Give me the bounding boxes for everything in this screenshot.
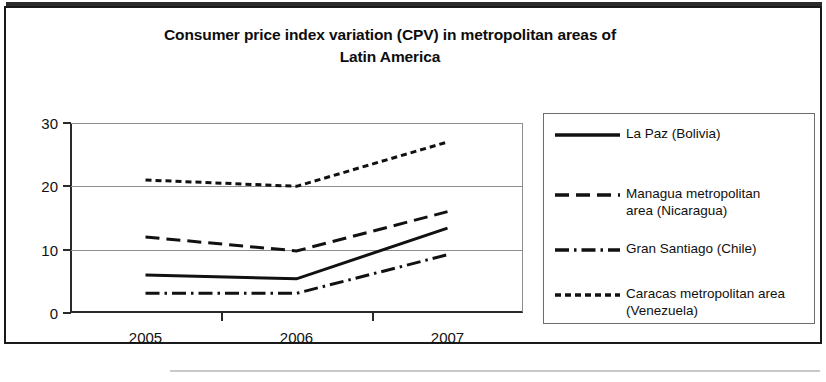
legend-item-0[interactable]: La Paz (Bolivia) [554,126,810,144]
x-tick-2 [372,313,374,321]
x-axis-label-2005: 2005 [129,329,162,346]
legend-line-icon [554,128,626,144]
chart-legend: La Paz (Bolivia)Managua metropolitan are… [543,113,815,324]
y-axis-label-30: 30 [41,115,58,132]
legend-line-icon [554,243,626,259]
series-line-3 [146,142,448,186]
legend-item-1[interactable]: Managua metropolitan area (Nicaragua) [554,186,810,219]
plot-area: 0102030 200520062007 [70,123,523,313]
series-line-0 [146,228,448,279]
page-bottom-rule [170,370,820,372]
chart-title: Consumer price index variation (CPV) in … [40,24,740,68]
legend-label: Managua metropolitan area (Nicaragua) [626,186,760,219]
x-axis-label-2007: 2007 [431,329,464,346]
x-tick-1 [221,313,223,321]
legend-label: La Paz (Bolivia) [626,126,721,143]
legend-label: Gran Santiago (Chile) [626,241,757,258]
legend-item-3[interactable]: Caracas metropolitan area (Venezuela) [554,286,810,319]
y-axis-label-10: 10 [41,241,58,258]
x-axis-label-2006: 2006 [280,329,313,346]
legend-line-icon [554,188,626,204]
chart-title-line-2: Latin America [40,46,740,68]
chart-title-line-1: Consumer price index variation (CPV) in … [164,26,616,43]
chart-figure: Consumer price index variation (CPV) in … [0,0,826,382]
y-axis-label-0: 0 [50,305,58,322]
legend-line-icon [554,288,626,304]
series-line-2 [146,255,448,294]
series-line-1 [146,212,448,251]
legend-item-2[interactable]: Gran Santiago (Chile) [554,241,810,259]
series-layer [70,123,523,313]
legend-label: Caracas metropolitan area (Venezuela) [626,286,785,319]
y-axis-label-20: 20 [41,178,58,195]
